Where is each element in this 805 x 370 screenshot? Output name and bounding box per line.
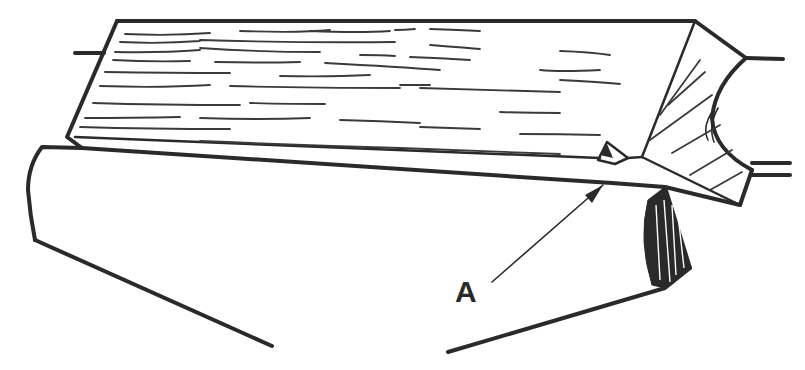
wood-block	[67, 21, 695, 183]
label-a: A	[455, 275, 477, 308]
right-rods	[746, 58, 790, 175]
end-grain-section	[642, 21, 752, 205]
pointer-arrow	[492, 185, 603, 282]
diagram-canvas: A	[0, 0, 805, 370]
curved-base	[28, 147, 740, 352]
triangular-notch	[598, 142, 642, 164]
wood-grain	[80, 29, 620, 154]
